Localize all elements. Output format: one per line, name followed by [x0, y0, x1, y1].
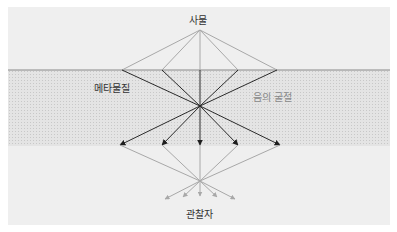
negative-refraction-label: 음의 굴절 — [253, 89, 292, 104]
object-label: 사물 — [189, 12, 207, 27]
diverging-rays-with-arrows — [120, 106, 280, 145]
metamaterial-label: 메타물질 — [94, 80, 130, 95]
observer-arrows — [165, 181, 235, 199]
exit-rays-to-observer — [120, 145, 280, 181]
incident-rays — [122, 30, 277, 70]
refraction-diagram — [0, 0, 397, 232]
observer-label: 관찰자 — [186, 206, 213, 221]
